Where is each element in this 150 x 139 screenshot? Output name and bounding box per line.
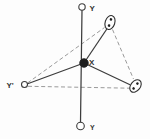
right-ellipse-outline	[127, 78, 143, 95]
dashed-line-leftpoint-to-right-ellipse	[28, 86, 130, 88]
diagram-canvas: Y Y Y' X	[0, 0, 150, 139]
right-pair-ellipse	[127, 78, 143, 95]
upper-right-pair-ellipse	[103, 14, 117, 31]
axis-bottom-node	[77, 122, 85, 130]
center-point-node	[80, 59, 88, 67]
axis-top-label: Y	[90, 4, 96, 13]
axis-bottom-label: Y	[90, 124, 95, 131]
center-point-label: X	[89, 58, 95, 67]
left-point-node	[22, 82, 28, 88]
upper-ellipse-outline	[103, 14, 117, 31]
solid-lines	[27, 10, 130, 122]
bond-center-to-upper-ellipse	[84, 30, 107, 64]
axis-diagram: Y Y Y' X	[0, 0, 150, 139]
left-point-label: Y'	[7, 81, 14, 90]
axis-top-node	[79, 4, 85, 10]
dashed-line-leftpoint-to-upper-ellipse	[28, 28, 105, 84]
bond-center-to-left-point	[27, 63, 84, 84]
dashed-line-upper-ellipse-to-right-ellipse	[113, 30, 134, 80]
